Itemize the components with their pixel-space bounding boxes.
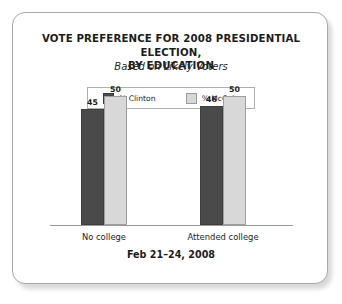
plot-area: 45 50 No college 46 50 [13,13,328,284]
bar-wrap-clinton: 46 [200,75,223,225]
bar-mccain [104,96,127,225]
bar-group-attended-college: 46 50 Attended college [175,75,271,225]
bar-value-clinton: 45 [87,98,98,107]
x-axis-line [50,225,293,226]
category-label-attended-college: Attended college [187,232,258,242]
bar-value-mccain: 50 [110,85,121,94]
bar-wrap-clinton: 45 [81,75,104,225]
bar-wrap-mccain: 50 [223,75,246,225]
bar-mccain [223,96,246,225]
bar-wrap-mccain: 50 [104,75,127,225]
chart-card: VOTE PREFERENCE FOR 2008 PRESIDENTIAL EL… [12,12,328,284]
bar-clinton [81,109,104,225]
category-label-no-college: No college [82,232,126,242]
bar-pair: 45 50 [81,75,127,225]
bar-value-clinton: 46 [206,95,217,104]
bar-pair: 46 50 [200,75,246,225]
bar-group-no-college: 45 50 No college [56,75,152,225]
chart-footer-date: Feb 21–24, 2008 [27,249,315,260]
bar-value-mccain: 50 [229,85,240,94]
bar-clinton [200,106,223,225]
